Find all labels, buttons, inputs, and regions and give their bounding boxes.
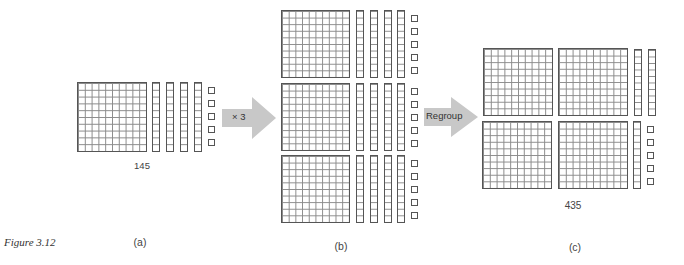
unit-cube (647, 126, 654, 133)
tens-rod (648, 49, 656, 116)
tens-rod (634, 49, 642, 116)
value-label-c: 435 (556, 200, 590, 211)
panel-label-a: (a) (125, 236, 155, 248)
unit-cube (647, 139, 654, 146)
hundreds-flat (483, 48, 553, 116)
tens-rod (356, 10, 364, 78)
hundreds-flat (558, 48, 628, 116)
unit-cube (647, 178, 654, 185)
unit-cube (411, 186, 418, 193)
tens-rod (384, 83, 392, 151)
tens-rod (166, 82, 174, 152)
unit-cube (208, 139, 215, 146)
unit-cube (411, 199, 418, 206)
unit-cube (411, 28, 418, 35)
unit-cube (411, 127, 418, 134)
panel-label-c: (c) (560, 241, 590, 253)
tens-rod (370, 83, 378, 151)
tens-rod (180, 82, 188, 152)
panel-label-b: (b) (326, 240, 356, 252)
tens-rod (152, 82, 160, 152)
unit-cube (208, 126, 215, 133)
multiply-arrow-label: × 3 (232, 111, 245, 122)
tens-rod (370, 10, 378, 78)
unit-cube (411, 173, 418, 180)
tens-rod (397, 10, 405, 78)
multiply-arrow-icon (220, 96, 278, 140)
hundreds-flat (281, 83, 350, 151)
unit-cube (411, 140, 418, 147)
hundreds-flat (558, 121, 628, 189)
tens-rod (633, 121, 641, 189)
tens-rod (384, 10, 392, 78)
tens-rod (194, 82, 202, 152)
unit-cube (411, 15, 418, 22)
hundreds-flat (281, 155, 350, 223)
tens-rod (356, 83, 364, 151)
figure-caption: Figure 3.12 (4, 236, 56, 248)
tens-rod (397, 155, 405, 223)
unit-cube (411, 41, 418, 48)
value-label-a: 145 (125, 160, 159, 171)
hundreds-flat (281, 10, 350, 78)
tens-rod (397, 83, 405, 151)
unit-cube (208, 87, 215, 94)
unit-cube (411, 114, 418, 121)
unit-cube (208, 100, 215, 107)
tens-rod (370, 155, 378, 223)
unit-cube (411, 88, 418, 95)
unit-cube (411, 160, 418, 167)
unit-cube (411, 212, 418, 219)
unit-cube (411, 54, 418, 61)
hundreds-flat (482, 121, 552, 189)
regroup-arrow-label: Regroup (426, 110, 462, 121)
unit-cube (647, 165, 654, 172)
unit-cube (411, 67, 418, 74)
unit-cube (647, 152, 654, 159)
hundreds-flat (77, 82, 147, 152)
tens-rod (384, 155, 392, 223)
unit-cube (208, 113, 215, 120)
tens-rod (356, 155, 364, 223)
unit-cube (411, 101, 418, 108)
